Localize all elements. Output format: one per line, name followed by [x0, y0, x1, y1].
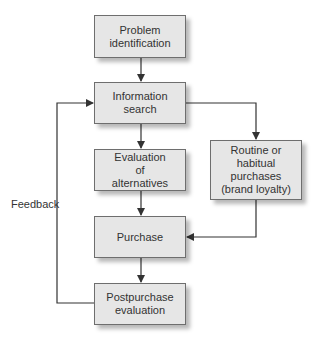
node-routine-purchases: Routine or habitual purchases (brand loy… [210, 140, 302, 200]
node-label: Postpurchase evaluation [106, 291, 173, 317]
node-label: Evaluation of alternatives [112, 151, 168, 190]
arrow-search-to-routine [186, 103, 256, 139]
node-postpurchase-evaluation: Postpurchase evaluation [94, 283, 186, 325]
node-label: Routine or habitual purchases (brand loy… [221, 144, 291, 196]
feedback-label: Feedback [11, 198, 59, 210]
node-evaluation-of-alternatives: Evaluation of alternatives [94, 149, 186, 191]
arrow-routine-to-purchase [187, 200, 256, 237]
node-label: Information search [112, 90, 167, 116]
node-information-search: Information search [94, 82, 186, 124]
node-label: Purchase [117, 231, 163, 244]
arrow-feedback-loop [57, 103, 94, 303]
node-purchase: Purchase [94, 216, 186, 258]
node-problem-identification: Problem identification [94, 15, 186, 58]
node-label: Problem identification [109, 24, 170, 50]
